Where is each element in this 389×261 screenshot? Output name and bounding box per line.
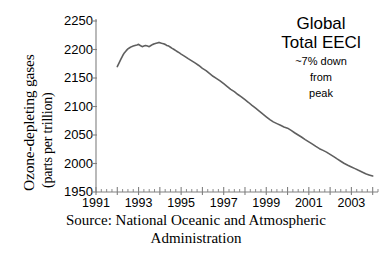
- x-axis-tick-label: 1991: [82, 196, 110, 210]
- annotation-sub-line2: from: [258, 71, 384, 84]
- annotation-sub-line3: peak: [258, 87, 384, 100]
- source-caption: Source: National Oceanic and Atmospheric…: [24, 211, 368, 247]
- chart-annotation: Global Total EECl ~7% down from peak: [258, 14, 384, 100]
- x-axis-tick-label: 2001: [295, 196, 323, 210]
- x-axis-tick-label: 1995: [167, 196, 195, 210]
- source-caption-line1: Source: National Oceanic and Atmospheric: [24, 211, 368, 229]
- x-axis-tick-labels: 1991199319951997199920012003: [0, 196, 389, 212]
- x-axis-tick-label: 1999: [252, 196, 280, 210]
- annotation-title-line2: Total EECl: [258, 33, 384, 52]
- x-axis-tick-label: 1993: [125, 196, 153, 210]
- x-axis-tick-label: 1997: [210, 196, 238, 210]
- source-caption-line2: Administration: [24, 229, 368, 247]
- annotation-sub-line1: ~7% down: [258, 55, 384, 68]
- x-axis-tick-label: 2003: [337, 196, 365, 210]
- annotation-title-line1: Global: [258, 14, 384, 33]
- chart-figure: Ozone-depleting gases (parts per trillio…: [0, 0, 389, 261]
